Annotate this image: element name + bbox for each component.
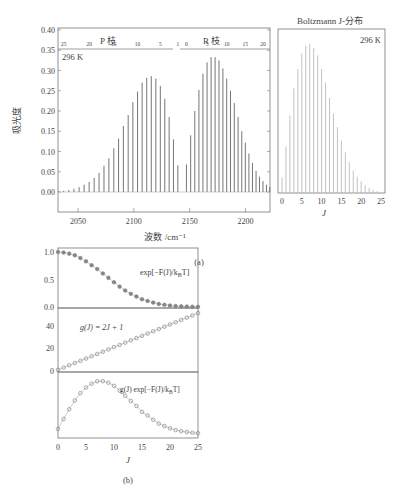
spectrum-plot: 0.000.050.100.150.200.250.300.350.40 205… [11,26,270,267]
boltzmann-temperature: 296 K [360,35,382,45]
panel-a-label: (a) [194,257,204,267]
svg-text:0: 0 [50,367,54,376]
svg-text:20: 20 [166,443,174,452]
panel-b: 0.00.51.0020400510152025 exp[−F(J)/kBT] … [44,248,202,485]
boltzmann-x-label: J [322,208,327,218]
svg-text:0: 0 [56,443,60,452]
r-branch-label: R 枝 [203,35,220,46]
svg-text:10: 10 [135,41,141,47]
svg-text:25: 25 [377,197,385,206]
svg-text:15: 15 [337,197,345,206]
svg-text:0.5: 0.5 [44,276,54,285]
x-tick-label: 2200 [237,217,253,226]
population-label: g(J) exp[−F(J)/kBT] [120,385,180,395]
panel-b-x-label: J [126,455,131,465]
svg-text:15: 15 [138,443,146,452]
x-tick-label: 2100 [126,217,142,226]
figure: 0.000.050.100.150.200.250.300.350.40 205… [0,0,394,495]
y-tick-label: 0.35 [41,46,55,55]
panel-b-label: (b) [123,475,133,485]
svg-text:20: 20 [357,197,365,206]
y-tick-label: 0.25 [41,87,55,96]
svg-text:5: 5 [300,197,304,206]
y-tick-label: 0.15 [41,127,55,136]
svg-text:0: 0 [280,197,284,206]
svg-text:0: 0 [185,41,188,47]
boltzmann-bars [282,44,381,193]
temperature-label: 296 K [62,52,84,62]
svg-text:20: 20 [86,41,92,47]
boltzmann-x-ticks: 0510152025 [280,197,385,206]
svg-text:5: 5 [84,443,88,452]
degeneracy-label: g(J) = 2J + 1 [80,323,123,332]
svg-text:15: 15 [243,41,249,47]
x-tick-label: 2050 [70,217,86,226]
svg-text:0.0: 0.0 [44,303,54,312]
svg-text:20: 20 [46,344,54,353]
boltzmann-title: Boltzmann J-分布 [297,15,363,26]
svg-text:1.0: 1.0 [44,248,54,257]
boltzmann-plot: Boltzmann J-分布 296 K 0510152025 J [278,15,385,218]
y-tick-label: 0.00 [41,188,55,197]
svg-text:1: 1 [176,41,179,47]
svg-text:20: 20 [260,41,266,47]
svg-text:10: 10 [224,41,230,47]
y-tick-label: 0.30 [41,67,55,76]
exp-factor-label: exp[−F(J)/kBT] [140,268,190,278]
y-tick-label: 0.40 [41,26,55,35]
spectrum-lines [59,57,270,192]
svg-text:10: 10 [110,443,118,452]
x-tick-label: 2150 [182,217,198,226]
x-axis-label: 波数 /cm⁻¹ [144,231,185,242]
svg-text:10: 10 [318,197,326,206]
svg-text:25: 25 [194,443,202,452]
y-tick-label: 0.10 [41,148,55,157]
p-branch-label: P 枝 [100,35,116,46]
branch-ticks: 252015105105101520 [61,41,266,47]
y-axis-label: 吸光度 [11,107,22,134]
y-tick-label: 0.05 [41,168,55,177]
y-tick-label: 0.20 [41,107,55,116]
svg-text:5: 5 [159,41,162,47]
svg-text:40: 40 [46,322,54,331]
x-axis-ticks: 2050210021502200 [70,208,253,226]
svg-text:25: 25 [61,41,67,47]
